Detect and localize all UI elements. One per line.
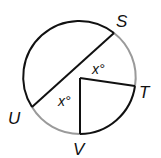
circle-diagram: S T U V x° x° — [0, 0, 161, 158]
arc-tv — [80, 86, 135, 134]
label-t: T — [139, 83, 151, 102]
arc-vu — [32, 107, 80, 134]
label-v: V — [73, 140, 86, 158]
label-u: U — [8, 109, 21, 128]
radius-ot — [80, 78, 135, 86]
angle-label-lower: x° — [57, 93, 71, 109]
arc-st — [114, 33, 136, 86]
angle-label-upper: x° — [91, 61, 105, 77]
label-s: S — [116, 12, 128, 31]
